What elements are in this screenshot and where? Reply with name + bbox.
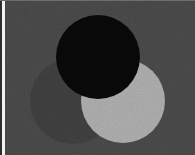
image-canvas <box>0 0 195 155</box>
top-light-edge-rule <box>0 0 195 1</box>
circles-figure <box>0 0 195 155</box>
left-light-edge-strip <box>2 0 5 155</box>
circle-black-top <box>56 15 140 99</box>
